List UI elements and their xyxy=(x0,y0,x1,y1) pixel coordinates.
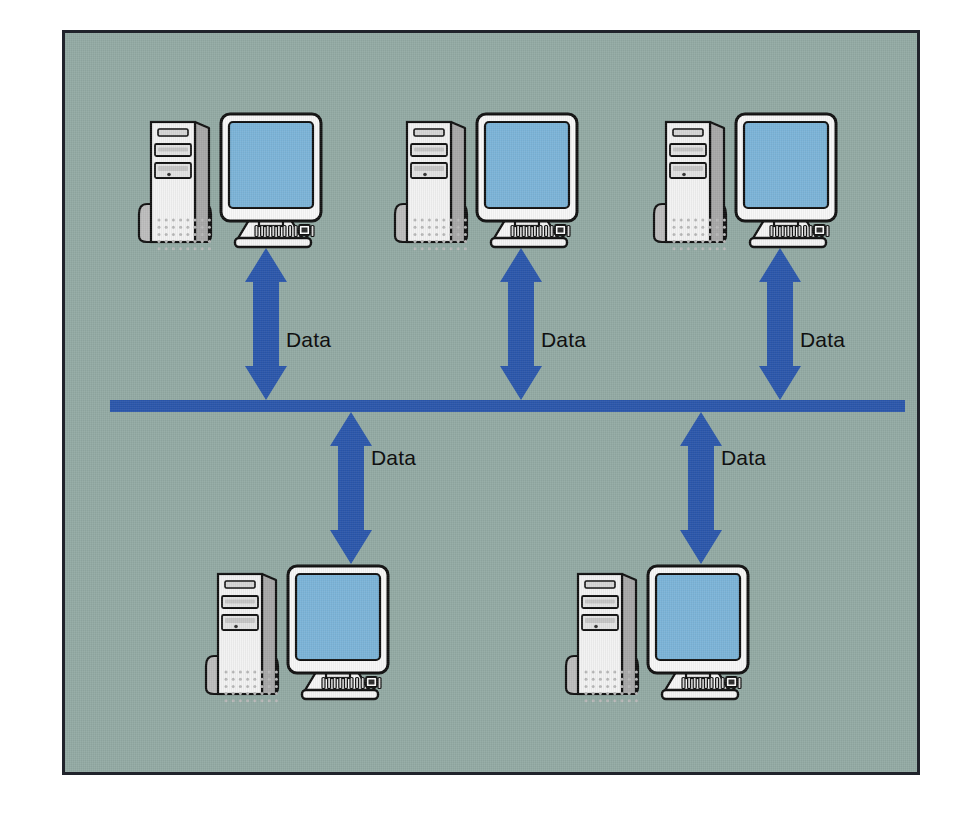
data-arrow-bottom-1 xyxy=(328,412,374,564)
computer-bottom-2 xyxy=(560,560,760,706)
data-arrow-top-3 xyxy=(757,248,803,400)
network-bus-line xyxy=(110,400,905,412)
diagram-canvas: DataDataDataDataData xyxy=(0,0,973,815)
data-label-top-1: Data xyxy=(286,328,331,352)
data-arrow-top-1 xyxy=(243,248,289,400)
diagram-frame: DataDataDataDataData xyxy=(62,30,920,775)
data-label-top-2: Data xyxy=(541,328,586,352)
computer-bottom-1 xyxy=(200,560,400,706)
computer-top-2 xyxy=(389,108,589,254)
computer-top-1 xyxy=(133,108,333,254)
data-label-bottom-2: Data xyxy=(721,446,766,470)
computer-top-3 xyxy=(648,108,848,254)
data-arrow-bottom-2 xyxy=(678,412,724,564)
data-label-top-3: Data xyxy=(800,328,845,352)
data-label-bottom-1: Data xyxy=(371,446,416,470)
data-arrow-top-2 xyxy=(498,248,544,400)
